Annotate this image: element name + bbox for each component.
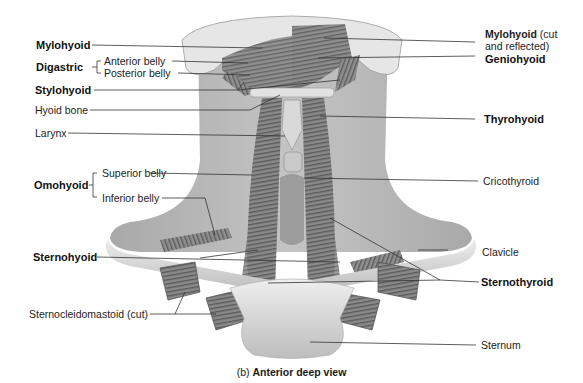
- label-sternum: Sternum: [481, 339, 521, 351]
- label-omohyoid-inferior-belly: Inferior belly: [102, 192, 159, 204]
- label-mylohyoid-cut: Mylohyoid (cut: [485, 28, 557, 40]
- label-omohyoid-superior-belly: Superior belly: [102, 167, 166, 179]
- label-sternohyoid: Sternohyoid: [33, 251, 97, 263]
- label-mylohyoid-cut-note2: and reflected): [485, 40, 549, 52]
- label-thyrohyoid: Thyrohyoid: [484, 113, 544, 125]
- label-stylohyoid: Stylohyoid: [35, 84, 91, 96]
- label-cricothyroid: Cricothyroid: [483, 175, 539, 187]
- label-mylohyoid-cut-name: Mylohyoid: [485, 28, 537, 40]
- label-mylohyoid-cut-note: (cut: [540, 28, 558, 40]
- label-digastric: Digastric: [36, 61, 83, 73]
- label-brackets: [89, 61, 101, 197]
- label-mylohyoid: Mylohyoid: [36, 39, 90, 51]
- label-larynx: Larynx: [35, 127, 67, 139]
- figure-caption: (b) Anterior deep view: [0, 366, 583, 378]
- label-clavicle: Clavicle: [482, 246, 519, 258]
- label-geniohyoid: Geniohyoid: [485, 53, 546, 65]
- sternum: [230, 279, 354, 359]
- label-digastric-posterior-belly: Posterior belly: [104, 67, 171, 79]
- label-hyoid-bone: Hyoid bone: [35, 104, 88, 116]
- label-digastric-anterior-belly: Anterior belly: [104, 55, 165, 67]
- hyoid-bone: [250, 88, 334, 97]
- label-omohyoid: Omohyoid: [34, 179, 88, 191]
- caption-prefix: (b): [237, 366, 250, 378]
- caption-title: Anterior deep view: [252, 366, 346, 378]
- label-sternocleidomastoid: Sternocleidomastoid (cut): [29, 308, 148, 320]
- label-sternothyroid: Sternothyroid: [481, 276, 553, 288]
